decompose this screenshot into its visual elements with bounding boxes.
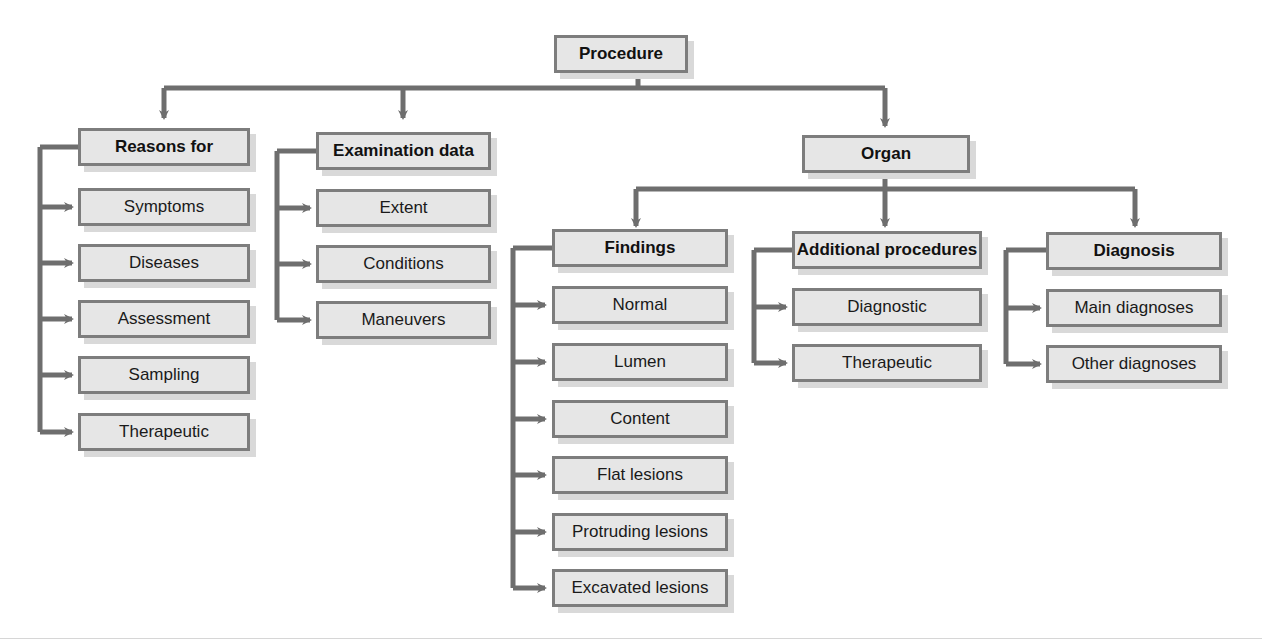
node-sampling: Sampling (78, 356, 250, 394)
node-diagnostic: Diagnostic (792, 288, 982, 326)
node-findings: Findings (552, 229, 728, 267)
node-assessment: Assessment (78, 300, 250, 338)
node-organ: Organ (802, 135, 970, 173)
node-procedure: Procedure (554, 35, 688, 73)
node-normal: Normal (552, 286, 728, 324)
node-protruding-lesions: Protruding lesions (552, 513, 728, 551)
node-diagnosis: Diagnosis (1046, 232, 1222, 270)
node-diseases: Diseases (78, 244, 250, 282)
divider (0, 638, 1262, 639)
node-examination-data: Examination data (316, 132, 491, 170)
node-therapeutic-additional: Therapeutic (792, 344, 982, 382)
procedure-hierarchy-diagram: Procedure Reasons for Symptoms Diseases … (0, 0, 1262, 644)
node-maneuvers: Maneuvers (316, 301, 491, 339)
node-symptoms: Symptoms (78, 188, 250, 226)
node-excavated-lesions: Excavated lesions (552, 569, 728, 607)
node-reasons-for: Reasons for (78, 128, 250, 166)
node-additional-procedures: Additional procedures (792, 231, 982, 269)
node-content: Content (552, 400, 728, 438)
node-extent: Extent (316, 189, 491, 227)
node-conditions: Conditions (316, 245, 491, 283)
node-lumen: Lumen (552, 343, 728, 381)
node-other-diagnoses: Other diagnoses (1046, 345, 1222, 383)
node-main-diagnoses: Main diagnoses (1046, 289, 1222, 327)
node-therapeutic-reasons: Therapeutic (78, 413, 250, 451)
node-flat-lesions: Flat lesions (552, 456, 728, 494)
